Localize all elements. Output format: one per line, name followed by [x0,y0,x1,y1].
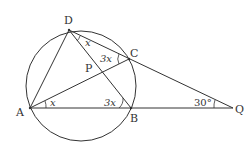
point-d [68,29,70,31]
angle-label-c: 3x [100,53,112,64]
circle [26,31,136,141]
point-b [130,107,132,109]
label-d: D [64,14,73,27]
label-p: P [85,62,93,75]
label-a: A [15,106,25,119]
point-a [29,107,31,109]
angle-arc-q [214,100,215,108]
angle-arc-b [119,98,123,108]
label-c: C [130,47,138,60]
angle-label-a: x [50,97,56,108]
segment-db [69,30,131,108]
label-b: B [130,112,138,125]
label-q: Q [235,103,244,116]
angle-label-b: 3x [104,97,116,108]
point-c [128,58,130,60]
angle-label-q: 30° [194,97,212,108]
angle-arc-d [77,36,80,41]
geometry-diagram: D C A B Q P x 3x x 3x 30° [0,0,251,153]
angle-label-d: x [85,37,91,48]
angle-arc-a [45,101,46,108]
angle-arc-c [118,54,119,64]
